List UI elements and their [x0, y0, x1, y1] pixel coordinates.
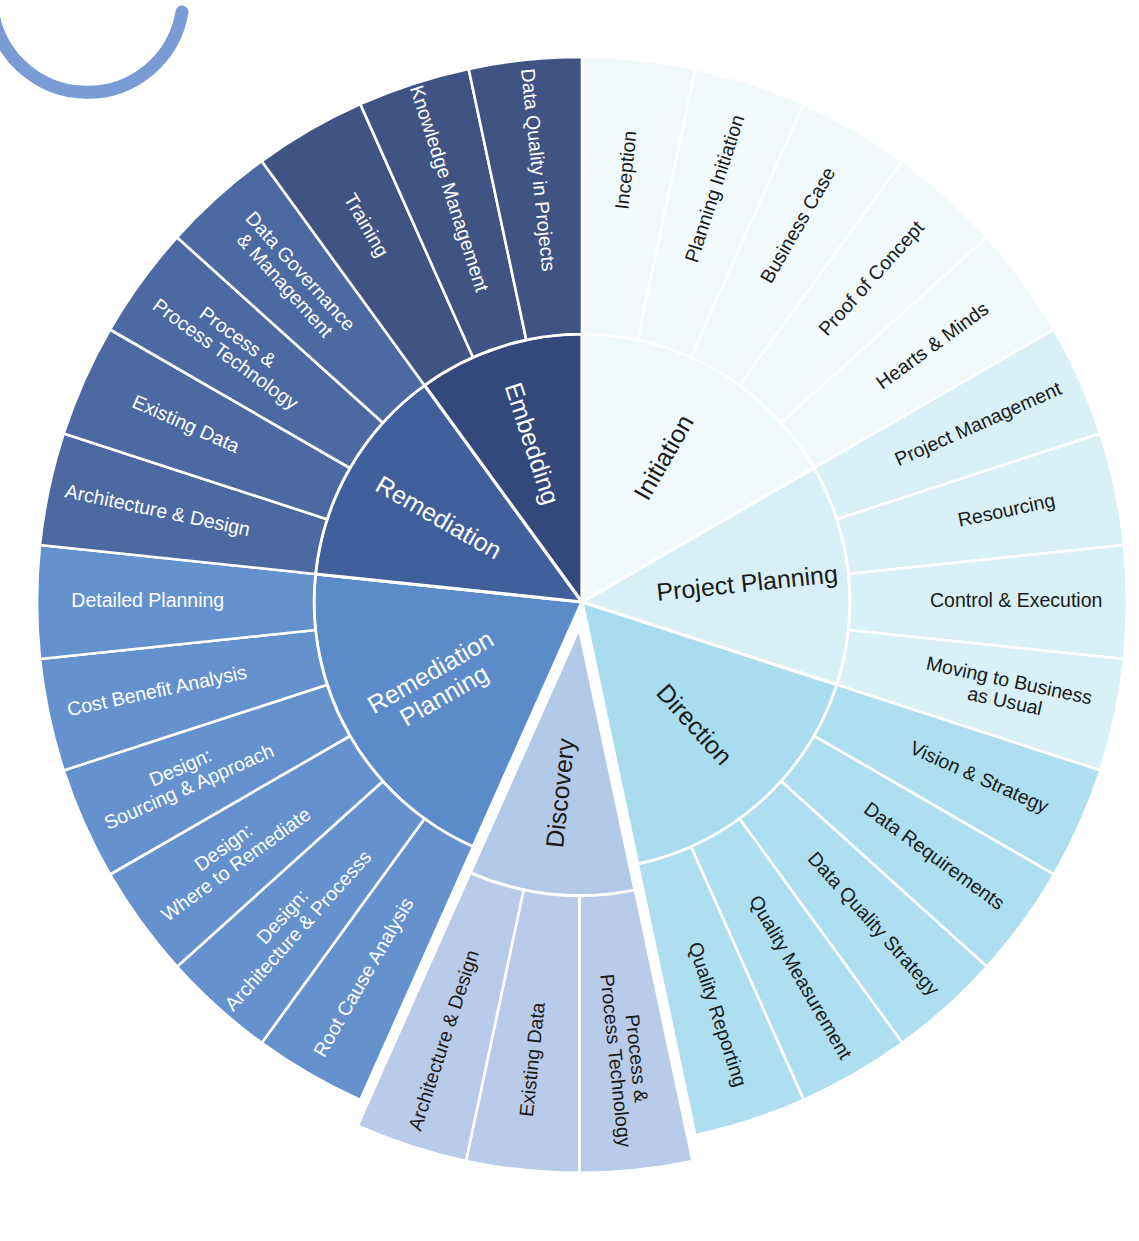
sub-segment-label-detailed-planning-4-5: Detailed Planning: [71, 589, 224, 611]
sunburst-chart: InitiationInceptionPlanning InitiationBu…: [0, 0, 1139, 1241]
logo-arc-decoration: [0, 8, 182, 92]
sunburst-segments: [37, 57, 1127, 1173]
partial-ring-logo-icon: [0, 8, 182, 92]
sunburst-diagram-canvas: InitiationInceptionPlanning InitiationBu…: [0, 0, 1139, 1241]
sub-segment-label-control-execution-1-2: Control & Execution: [930, 589, 1102, 611]
